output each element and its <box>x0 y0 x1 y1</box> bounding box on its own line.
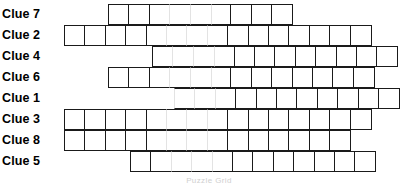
crossword-cell[interactable] <box>84 130 106 151</box>
crossword-cell-highlighted[interactable] <box>191 151 213 172</box>
crossword-cell[interactable] <box>64 109 86 130</box>
crossword-cell[interactable] <box>251 67 273 88</box>
crossword-cell[interactable] <box>268 25 290 46</box>
crossword-cell[interactable] <box>128 4 150 25</box>
crossword-cell[interactable] <box>248 130 270 151</box>
crossword-cell[interactable] <box>227 130 249 151</box>
crossword-cell[interactable] <box>329 109 351 130</box>
crossword-cell[interactable] <box>125 130 147 151</box>
crossword-cell[interactable] <box>309 25 331 46</box>
crossword-cell-highlighted[interactable] <box>171 151 193 172</box>
crossword-cell[interactable] <box>230 67 252 88</box>
crossword-cell[interactable] <box>378 88 400 109</box>
crossword-cell[interactable] <box>128 67 150 88</box>
crossword-cell[interactable] <box>254 46 276 67</box>
crossword-cell[interactable] <box>105 130 127 151</box>
crossword-cell[interactable] <box>64 130 86 151</box>
crossword-cell-highlighted[interactable] <box>166 25 188 46</box>
crossword-cell[interactable] <box>235 88 257 109</box>
crossword-cell[interactable] <box>309 130 331 151</box>
crossword-cell[interactable] <box>337 88 359 109</box>
crossword-cell[interactable] <box>105 109 127 130</box>
crossword-cell[interactable] <box>84 109 106 130</box>
crossword-cell[interactable] <box>356 46 378 67</box>
crossword-cell[interactable] <box>268 130 290 151</box>
crossword-cell[interactable] <box>295 46 317 67</box>
crossword-cell-highlighted[interactable] <box>194 88 216 109</box>
crossword-cell[interactable] <box>248 109 270 130</box>
crossword-cell[interactable] <box>149 4 171 25</box>
crossword-cell[interactable] <box>288 130 310 151</box>
crossword-cell[interactable] <box>315 46 337 67</box>
crossword-cell[interactable] <box>108 67 130 88</box>
crossword-cell[interactable] <box>146 109 168 130</box>
crossword-cell[interactable] <box>271 4 293 25</box>
crossword-cell-highlighted[interactable] <box>186 130 208 151</box>
crossword-cell[interactable] <box>292 67 314 88</box>
crossword-cell-highlighted[interactable] <box>174 88 196 109</box>
crossword-cell[interactable] <box>256 88 278 109</box>
crossword-cell[interactable] <box>149 67 171 88</box>
crossword-cell[interactable] <box>215 88 237 109</box>
crossword-cell[interactable] <box>207 109 229 130</box>
crossword-cell-highlighted[interactable] <box>186 109 208 130</box>
crossword-cell[interactable] <box>252 151 274 172</box>
crossword-cell[interactable] <box>358 88 380 109</box>
crossword-cell[interactable] <box>230 4 252 25</box>
crossword-cell[interactable] <box>288 109 310 130</box>
crossword-cell[interactable] <box>276 88 298 109</box>
crossword-cell[interactable] <box>288 25 310 46</box>
crossword-cell-highlighted[interactable] <box>190 67 212 88</box>
crossword-cell-highlighted[interactable] <box>166 130 188 151</box>
crossword-cell[interactable] <box>84 25 106 46</box>
crossword-cell[interactable] <box>314 151 336 172</box>
crossword-cell-highlighted[interactable] <box>172 46 194 67</box>
crossword-cell[interactable] <box>213 46 235 67</box>
crossword-cell[interactable] <box>152 46 174 67</box>
crossword-cell[interactable] <box>234 46 256 67</box>
crossword-cell[interactable] <box>130 151 152 172</box>
crossword-cell[interactable] <box>274 46 296 67</box>
crossword-cell[interactable] <box>350 109 372 130</box>
crossword-cell[interactable] <box>105 25 127 46</box>
crossword-cell[interactable] <box>334 151 356 172</box>
crossword-cell[interactable] <box>210 4 232 25</box>
crossword-cell[interactable] <box>64 25 86 46</box>
crossword-cell[interactable] <box>273 151 295 172</box>
crossword-cell-highlighted[interactable] <box>169 67 191 88</box>
crossword-cell[interactable] <box>212 151 234 172</box>
crossword-cell[interactable] <box>353 67 375 88</box>
crossword-cell[interactable] <box>312 67 334 88</box>
crossword-cell[interactable] <box>248 25 270 46</box>
crossword-cell[interactable] <box>207 130 229 151</box>
crossword-cell-highlighted[interactable] <box>166 109 188 130</box>
crossword-cell[interactable] <box>271 67 293 88</box>
crossword-cell-highlighted[interactable] <box>169 4 191 25</box>
crossword-cell[interactable] <box>150 151 172 172</box>
crossword-cell[interactable] <box>317 88 339 109</box>
crossword-cell[interactable] <box>350 25 372 46</box>
crossword-cell[interactable] <box>207 25 229 46</box>
crossword-cell[interactable] <box>293 151 315 172</box>
crossword-cell[interactable] <box>125 109 147 130</box>
crossword-cell[interactable] <box>108 4 130 25</box>
crossword-cell[interactable] <box>336 46 358 67</box>
crossword-cell[interactable] <box>309 109 331 130</box>
crossword-cell[interactable] <box>376 46 398 67</box>
crossword-cell[interactable] <box>125 25 147 46</box>
crossword-cell[interactable] <box>251 4 273 25</box>
crossword-cell[interactable] <box>146 25 168 46</box>
crossword-cell[interactable] <box>146 130 168 151</box>
crossword-cell[interactable] <box>227 25 249 46</box>
crossword-cell-highlighted[interactable] <box>193 46 215 67</box>
crossword-cell[interactable] <box>329 25 351 46</box>
crossword-cell[interactable] <box>354 151 376 172</box>
crossword-cell[interactable] <box>232 151 254 172</box>
crossword-cell-highlighted[interactable] <box>190 4 212 25</box>
crossword-cell[interactable] <box>210 67 232 88</box>
crossword-cell[interactable] <box>332 67 354 88</box>
crossword-cell[interactable] <box>268 109 290 130</box>
crossword-cell-highlighted[interactable] <box>186 25 208 46</box>
crossword-cell[interactable] <box>296 88 318 109</box>
crossword-cell[interactable] <box>227 109 249 130</box>
